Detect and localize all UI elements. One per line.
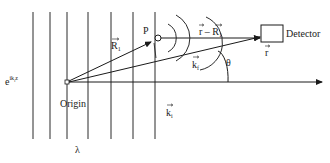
R1-vector <box>69 42 151 81</box>
scattering-diagram: eikiz Origin λ P R1 r – R1 r kf ki θ Det… <box>0 0 330 163</box>
ki-label: ki <box>166 104 173 119</box>
point-P-label: P <box>143 25 149 36</box>
svg-text:r: r <box>265 47 269 58</box>
detector-box <box>261 25 283 42</box>
origin-marker <box>65 80 69 84</box>
incident-wave-label: eikiz <box>5 75 18 87</box>
svg-text:ki: ki <box>166 107 173 119</box>
r-vector <box>69 37 260 82</box>
theta-label: θ <box>226 57 231 68</box>
kf-label: kf <box>192 56 199 71</box>
wavelength-label: λ <box>75 144 80 155</box>
svg-text:kf: kf <box>192 59 199 71</box>
svg-text:r – R1: r – R1 <box>199 26 222 38</box>
wavefronts <box>33 12 155 139</box>
svg-text:R1: R1 <box>111 40 121 52</box>
r-minus-R1-label: r – R1 <box>199 24 222 38</box>
scatterer-P <box>155 35 161 41</box>
origin-label: Origin <box>60 98 86 109</box>
r-label: r <box>265 45 270 58</box>
detector-label: Detector <box>286 28 321 39</box>
R1-label: R1 <box>111 38 121 52</box>
